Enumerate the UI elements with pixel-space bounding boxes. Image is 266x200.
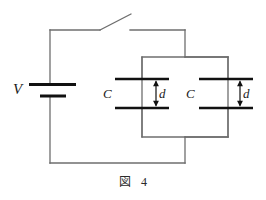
capacitor-2-gap-arrow-head-down [237,101,243,107]
figure-container: V C d C d 図4 [0,0,266,200]
capacitor-1-gap-label: d [159,87,166,100]
figure-caption: 図4 [0,172,266,190]
capacitor-2-gap-label: d [243,87,250,100]
circuit-diagram-canvas [0,0,266,200]
capacitor-branch-wires [142,57,228,137]
capacitor-1-gap-arrow-head-down [153,101,159,107]
switch-lever[interactable] [100,14,131,30]
capacitor-1-label: C [103,87,112,100]
switch[interactable] [100,14,131,30]
figure-caption-word: 図 [119,175,131,189]
battery-symbol [29,85,76,97]
battery-label: V [13,82,22,97]
capacitor-2-label: C [186,87,195,100]
figure-caption-number: 4 [141,175,147,189]
